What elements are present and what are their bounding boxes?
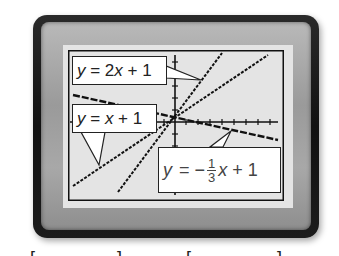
callout-y-equals-neg-third-x-plus-1: y = − 1 3 x + 1 — [158, 147, 281, 193]
callout-pointer-x — [81, 132, 105, 165]
cropped-caption: [ ] [ ] — [0, 249, 339, 256]
fraction-one-third: 1 3 — [207, 157, 216, 184]
callout-y-equals-x-plus-1: y = x + 1 — [72, 104, 157, 133]
callout-y-equals-2x-plus-1: y = 2x + 1 — [72, 56, 167, 85]
callout-pointer-neg-third — [210, 131, 231, 147]
callout-pointer-2x — [166, 66, 201, 80]
